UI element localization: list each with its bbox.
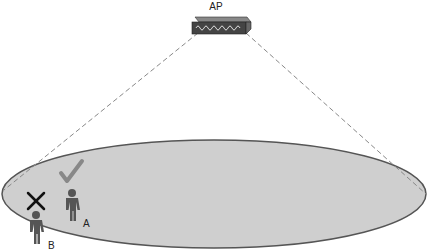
client-a-label: A	[83, 218, 90, 229]
coverage-area	[2, 140, 426, 248]
wireless-coverage-diagram: AP A B	[0, 0, 429, 252]
client-b-label: B	[48, 240, 55, 251]
access-point-icon	[192, 17, 251, 34]
ap-label: AP	[209, 1, 223, 12]
